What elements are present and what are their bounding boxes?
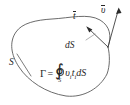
integral-symbol: ∮ [55, 64, 64, 78]
ds-label-leader-line [86, 34, 95, 40]
contour-integral: ∮ S [55, 64, 64, 83]
circulation-formula: Γ = ∮ S υitidS [40, 64, 86, 83]
surface-element-label: dS [65, 41, 75, 51]
velocity-vector-shaft [108, 11, 118, 47]
tangent-vector-symbol: t [73, 11, 76, 22]
tangent-vector-label: t [73, 11, 76, 22]
integrand-differential: dS [76, 67, 86, 78]
formula-gamma: Γ [40, 68, 46, 79]
circulation-diagram: t υ dS S Γ = ∮ S υitidS [0, 0, 130, 105]
velocity-vector-arrowhead [116, 8, 122, 15]
diagram-canvas [0, 0, 130, 105]
velocity-vector-symbol: υ [101, 5, 105, 16]
surface-label-leader-line [17, 54, 31, 76]
formula-equals: = [48, 68, 54, 79]
surface-name-label: S [9, 58, 14, 68]
closed-surface-curve [12, 16, 110, 96]
formula-integrand: υitidS [65, 67, 86, 80]
velocity-vector-label: υ [101, 5, 105, 16]
